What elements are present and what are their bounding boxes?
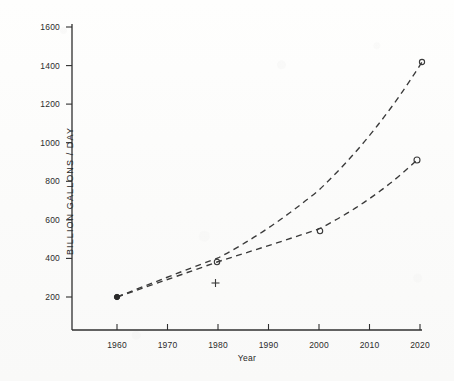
x-tick-label-1970: 1970 <box>158 340 178 350</box>
y-tick-label-200: 200 <box>24 292 60 302</box>
y-tick-label-400: 400 <box>24 253 60 263</box>
chart-screenshot: 1600 1400 1200 1000 800 600 400 200 1960… <box>0 0 454 381</box>
x-axis-ticks <box>117 324 420 330</box>
y-tick-label-600: 600 <box>24 215 60 225</box>
axis-lines <box>72 24 422 330</box>
y-tick-label-1400: 1400 <box>24 61 60 71</box>
y-tick-label-1000: 1000 <box>24 138 60 148</box>
y-tick-label-1600: 1600 <box>24 22 60 32</box>
x-tick-label-2020: 2020 <box>410 340 430 350</box>
marker-2020-upper-open <box>419 59 424 64</box>
marker-1960-origin <box>114 294 119 299</box>
upper-projection-curve <box>117 62 422 297</box>
x-tick-label-2000: 2000 <box>309 340 329 350</box>
x-tick-label-1990: 1990 <box>259 340 279 350</box>
data-markers <box>114 59 424 299</box>
y-axis-title: BILLION GALLONS / DAY <box>65 127 75 255</box>
marker-2020-lower-open <box>414 157 420 163</box>
y-tick-label-800: 800 <box>24 176 60 186</box>
x-tick-label-1980: 1980 <box>208 340 228 350</box>
marker-1980-plus <box>212 279 220 287</box>
x-axis-title: Year <box>238 353 256 363</box>
y-tick-label-1200: 1200 <box>24 99 60 109</box>
x-tick-label-1960: 1960 <box>107 340 127 350</box>
lower-projection-curve <box>117 160 417 297</box>
x-tick-label-2010: 2010 <box>360 340 380 350</box>
